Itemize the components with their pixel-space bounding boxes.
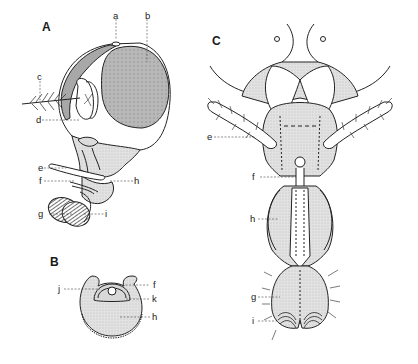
panel-label-c: C — [212, 34, 221, 48]
panel-c-drawing — [208, 24, 392, 340]
callout-a-pseudotrachea: i — [105, 209, 107, 219]
callout-b-k: k — [152, 294, 157, 304]
callout-a-labellum: g — [38, 209, 43, 219]
callout-a-compound-eye: b — [145, 11, 150, 21]
callout-c-labrum: f — [252, 172, 255, 182]
figure-artwork — [0, 0, 418, 364]
panel-a-drawing — [22, 42, 170, 230]
callout-c-pseudotrachea: i — [252, 316, 254, 326]
callout-a-arista: c — [37, 72, 42, 82]
callout-a-ocellus: a — [113, 11, 118, 21]
callout-a-haustellum: h — [134, 176, 139, 186]
callout-b-j: j — [58, 284, 60, 294]
callout-b-h: h — [152, 312, 157, 322]
panel-label-a: A — [42, 20, 51, 34]
callout-a-labrum: f — [39, 176, 42, 186]
callout-a-antenna: d — [36, 115, 41, 125]
anatomical-figure: A B C a b c d e f h g i j f k h e f h g … — [0, 0, 418, 364]
callout-c-palp: e — [207, 132, 212, 142]
panel-label-b: B — [50, 255, 59, 269]
callout-c-haustellum: h — [250, 214, 255, 224]
callout-a-palp: e — [38, 163, 43, 173]
callout-c-labellum: g — [251, 292, 256, 302]
callout-b-f: f — [153, 280, 156, 290]
